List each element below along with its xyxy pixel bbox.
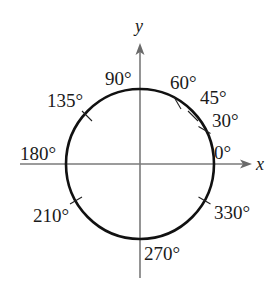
x-axis-label: x (255, 154, 264, 174)
unit-circle-diagram: x y 90° 60° 45° 30° 135° 180° 0° 210° 33… (0, 0, 275, 289)
angle-label-45: 45° (200, 87, 227, 108)
angle-label-60: 60° (170, 72, 197, 93)
angle-label-180: 180° (20, 143, 56, 164)
y-axis-label: y (133, 16, 143, 36)
angle-label-30: 30° (212, 110, 239, 131)
angle-label-330: 330° (214, 202, 250, 223)
angle-label-210: 210° (33, 205, 69, 226)
angle-label-270: 270° (144, 243, 180, 264)
angle-label-90: 90° (105, 68, 132, 89)
angle-label-0: 0° (214, 142, 231, 163)
angle-label-135: 135° (47, 90, 83, 111)
